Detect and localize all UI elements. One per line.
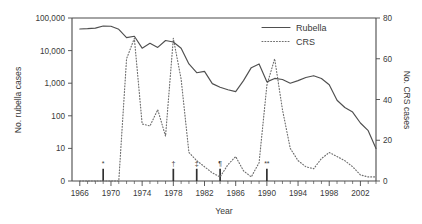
x-axis-ticks: 1966197019741978198219861990199419982002 xyxy=(71,181,376,198)
x-tick-label: 1970 xyxy=(102,189,121,198)
chart-figure: 0101001,00010,000100,000 020406080 19661… xyxy=(0,0,422,224)
x-tick-label: 1978 xyxy=(164,189,183,198)
event-marker-glyph: ** xyxy=(264,160,270,167)
event-marker-glyph: † xyxy=(171,160,175,167)
chart-canvas: 0101001,00010,000100,000 020406080 19661… xyxy=(0,0,422,224)
event-markers: *†‡¶** xyxy=(102,160,270,181)
x-tick-label: 1998 xyxy=(320,189,339,198)
x-tick-label: 1966 xyxy=(71,189,90,198)
x-tick-label: 1990 xyxy=(258,189,277,198)
left-tick-label: 10,000 xyxy=(40,47,65,56)
y-right-axis-title: No. CRS cases xyxy=(402,71,412,130)
event-marker-glyph: * xyxy=(102,160,105,167)
right-tick-label: 0 xyxy=(383,177,388,186)
right-tick-label: 20 xyxy=(383,136,393,145)
x-tick-label: 2002 xyxy=(351,189,370,198)
x-tick-label: 1986 xyxy=(227,189,246,198)
right-tick-label: 60 xyxy=(383,55,393,64)
left-tick-label: 100,000 xyxy=(35,14,65,23)
x-tick-label: 1994 xyxy=(289,189,308,198)
x-tick-label: 1982 xyxy=(195,189,214,198)
event-marker-glyph: ¶ xyxy=(218,160,222,167)
right-tick-label: 80 xyxy=(383,14,393,23)
x-axis-title: Year xyxy=(215,206,233,216)
right-axis-ticks: 020406080 xyxy=(376,14,393,186)
series-line-rubella xyxy=(80,26,376,148)
y-left-axis-title: No. rubella cases xyxy=(13,67,23,133)
left-tick-label: 1,000 xyxy=(45,79,66,88)
left-tick-label: 100 xyxy=(51,112,65,121)
left-tick-label: 10 xyxy=(56,144,66,153)
series-line-crs xyxy=(80,38,376,181)
left-tick-label: 0 xyxy=(60,177,65,186)
legend-label-rubella: Rubella xyxy=(296,23,327,33)
plot-axes xyxy=(72,18,376,181)
x-tick-label: 1974 xyxy=(133,189,152,198)
legend-label-crs: CRS xyxy=(296,37,315,47)
left-axis-ticks: 0101001,00010,000100,000 xyxy=(35,14,72,186)
chart-legend: Rubella CRS xyxy=(262,23,327,47)
right-tick-label: 40 xyxy=(383,96,393,105)
